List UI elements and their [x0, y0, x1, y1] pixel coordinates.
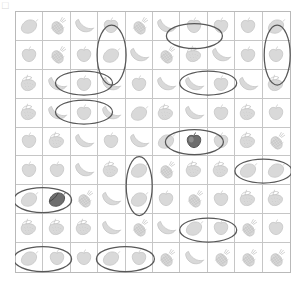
- grid-cell-r6c6[interactable]: [153, 156, 180, 185]
- strawberry-icon: [183, 44, 205, 66]
- grid-cell-r3c8[interactable]: [208, 70, 235, 99]
- grid-cell-r5c6[interactable]: [153, 128, 180, 157]
- grid-cell-r9c2[interactable]: [43, 243, 70, 272]
- grid-cell-r2c1[interactable]: [16, 41, 43, 70]
- grid-cell-r9c1[interactable]: [16, 243, 43, 272]
- grid-cell-r4c5[interactable]: [126, 99, 153, 128]
- grid-cell-r1c7[interactable]: [180, 12, 207, 41]
- grid-cell-r2c9[interactable]: [235, 41, 262, 70]
- grid-cell-r3c4[interactable]: [98, 70, 125, 99]
- grid-cell-r2c6[interactable]: [153, 41, 180, 70]
- grid-cell-r3c1[interactable]: [16, 70, 43, 99]
- grid-cell-r7c2[interactable]: [43, 185, 70, 214]
- grid-cell-r8c3[interactable]: [71, 214, 98, 243]
- pineapple-icon: [46, 44, 68, 66]
- grid-cell-r1c6[interactable]: [153, 12, 180, 41]
- grid-cell-r9c8[interactable]: [208, 243, 235, 272]
- grid-cell-r8c9[interactable]: [235, 214, 262, 243]
- grid-cell-r4c2[interactable]: [43, 99, 70, 128]
- grid-cell-r6c5[interactable]: [126, 156, 153, 185]
- grid-cell-r3c9[interactable]: [235, 70, 262, 99]
- grid-cell-r5c1[interactable]: [16, 128, 43, 157]
- grid-cell-r8c6[interactable]: [153, 214, 180, 243]
- grid-cell-r4c6[interactable]: [153, 99, 180, 128]
- grid-cell-r9c10[interactable]: [263, 243, 290, 272]
- grid-cell-r2c7[interactable]: [180, 41, 207, 70]
- grid-cell-r2c8[interactable]: [208, 41, 235, 70]
- grid-cell-r9c7[interactable]: [180, 243, 207, 272]
- grid-cell-r6c4[interactable]: [98, 156, 125, 185]
- grid-cell-r5c4[interactable]: [98, 128, 125, 157]
- grid-cell-r9c3[interactable]: [71, 243, 98, 272]
- grid-cell-r7c10[interactable]: [263, 185, 290, 214]
- grid-cell-r6c7[interactable]: [180, 156, 207, 185]
- grid-cell-r4c8[interactable]: [208, 99, 235, 128]
- grid-cell-r7c1[interactable]: [16, 185, 43, 214]
- grid-cell-r4c10[interactable]: [263, 99, 290, 128]
- grid-cell-r6c3[interactable]: [71, 156, 98, 185]
- grid-cell-r1c4[interactable]: [98, 12, 125, 41]
- grid-cell-r5c5[interactable]: [126, 128, 153, 157]
- grid-cell-r3c10[interactable]: [263, 70, 290, 99]
- grid-cell-r4c1[interactable]: [16, 99, 43, 128]
- grid-cell-r8c7[interactable]: [180, 214, 207, 243]
- grid-cell-r1c10[interactable]: [263, 12, 290, 41]
- grid-cell-r1c9[interactable]: [235, 12, 262, 41]
- grid-cell-r5c9[interactable]: [235, 128, 262, 157]
- apple-icon: [73, 73, 95, 95]
- lemon-icon: [128, 188, 150, 210]
- grid-cell-r7c8[interactable]: [208, 185, 235, 214]
- grid-cell-r3c5[interactable]: [126, 70, 153, 99]
- grid-cell-r3c6[interactable]: [153, 70, 180, 99]
- lemon-icon: [100, 247, 122, 269]
- grid-cell-r1c2[interactable]: [43, 12, 70, 41]
- grid-cell-r5c3[interactable]: [71, 128, 98, 157]
- grid-cell-r7c6[interactable]: [153, 185, 180, 214]
- grid-cell-r7c7[interactable]: [180, 185, 207, 214]
- grid-cell-r8c4[interactable]: [98, 214, 125, 243]
- grid-cell-r1c1[interactable]: [16, 12, 43, 41]
- grid-cell-r6c1[interactable]: [16, 156, 43, 185]
- grid-cell-r9c9[interactable]: [235, 243, 262, 272]
- grid-cell-r7c3[interactable]: [71, 185, 98, 214]
- grid-cell-r8c5[interactable]: [126, 214, 153, 243]
- grid-cell-r2c10[interactable]: [263, 41, 290, 70]
- grid-cell-r5c10[interactable]: [263, 128, 290, 157]
- grid-cell-r6c2[interactable]: [43, 156, 70, 185]
- grid-cell-r6c9[interactable]: [235, 156, 262, 185]
- pineapple-icon: [155, 159, 177, 181]
- grid-cell-r6c10[interactable]: [263, 156, 290, 185]
- grid-cell-r8c10[interactable]: [263, 214, 290, 243]
- grid-cell-r5c7[interactable]: [180, 128, 207, 157]
- grid-cell-r9c4[interactable]: [98, 243, 125, 272]
- grid-cell-r1c3[interactable]: [71, 12, 98, 41]
- grid-cell-r5c2[interactable]: [43, 128, 70, 157]
- grid-cell-r8c2[interactable]: [43, 214, 70, 243]
- grid-cell-r9c5[interactable]: [126, 243, 153, 272]
- grid-cell-r4c7[interactable]: [180, 99, 207, 128]
- grid-cell-r8c8[interactable]: [208, 214, 235, 243]
- grid-cell-r2c4[interactable]: [98, 41, 125, 70]
- grid-cell-r5c8[interactable]: [208, 128, 235, 157]
- grid-cell-r2c5[interactable]: [126, 41, 153, 70]
- grid-cell-r2c2[interactable]: [43, 41, 70, 70]
- strawberry-icon: [100, 159, 122, 181]
- grid-cell-r2c3[interactable]: [71, 41, 98, 70]
- grid-cell-r6c8[interactable]: [208, 156, 235, 185]
- grid-cell-r4c9[interactable]: [235, 99, 262, 128]
- grid-cell-r4c4[interactable]: [98, 99, 125, 128]
- grid-cell-r7c9[interactable]: [235, 185, 262, 214]
- grid-cell-r3c7[interactable]: [180, 70, 207, 99]
- grid-cell-r4c3[interactable]: [71, 99, 98, 128]
- grid-cell-r3c3[interactable]: [71, 70, 98, 99]
- grid-cell-r7c5[interactable]: [126, 185, 153, 214]
- banana-icon: [46, 102, 68, 124]
- grid-cell-r9c6[interactable]: [153, 243, 180, 272]
- grid-cell-r1c5[interactable]: [126, 12, 153, 41]
- fruit-grid[interactable]: [15, 11, 291, 273]
- grid-cell-r3c2[interactable]: [43, 70, 70, 99]
- grid-cell-r1c8[interactable]: [208, 12, 235, 41]
- grid-cell-r8c1[interactable]: [16, 214, 43, 243]
- apple-icon: [210, 217, 232, 239]
- grid-cell-r7c4[interactable]: [98, 185, 125, 214]
